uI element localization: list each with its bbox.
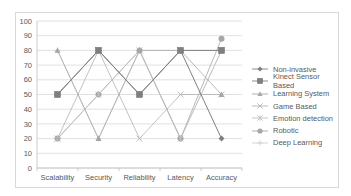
y-tick-label: 30 bbox=[24, 120, 32, 129]
x-marker-icon bbox=[251, 102, 269, 110]
x-tick-label: Latency bbox=[167, 173, 194, 182]
triangle-marker-icon bbox=[251, 90, 269, 98]
y-tick-label: 70 bbox=[24, 61, 32, 70]
y-tick-label: 0 bbox=[28, 164, 32, 173]
plus-marker-icon bbox=[251, 139, 269, 147]
circle-marker-icon bbox=[251, 127, 269, 135]
y-tick-label: 10 bbox=[24, 149, 32, 158]
chart-legend: Non-invasiveKinect Sensor BasedLearning … bbox=[251, 63, 343, 149]
legend-label: Deep Learning bbox=[273, 138, 322, 147]
x-tick-label: Scalability bbox=[41, 173, 75, 182]
x-tick-label: Security bbox=[85, 173, 112, 182]
legend-item: Deep Learning bbox=[251, 137, 343, 149]
y-tick-label: 100 bbox=[19, 17, 32, 26]
y-tick-label: 20 bbox=[24, 134, 32, 143]
y-tick-label: 60 bbox=[24, 75, 32, 84]
legend-item: Emotion detection bbox=[251, 112, 343, 124]
y-tick-label: 90 bbox=[24, 31, 32, 40]
legend-label: Kinect Sensor Based bbox=[273, 72, 343, 90]
y-tick-label: 40 bbox=[24, 105, 32, 114]
legend-item: Learning System bbox=[251, 88, 343, 100]
legend-item: Game Based bbox=[251, 100, 343, 112]
legend-label: Robotic bbox=[273, 126, 298, 135]
legend-label: Game Based bbox=[273, 102, 317, 111]
legend-item: Kinect Sensor Based bbox=[251, 75, 343, 87]
x-tick-label: Accuracy bbox=[206, 173, 237, 182]
legend-item: Robotic bbox=[251, 124, 343, 136]
x-tick-label: Reliability bbox=[123, 173, 155, 182]
y-tick-label: 50 bbox=[24, 90, 32, 99]
diamond-marker-icon bbox=[251, 65, 269, 73]
legend-label: Learning System bbox=[273, 89, 329, 98]
legend-label: Emotion detection bbox=[273, 114, 333, 123]
asterisk-marker-icon bbox=[251, 114, 269, 122]
y-tick-label: 80 bbox=[24, 46, 32, 55]
square-marker-icon bbox=[251, 77, 269, 85]
